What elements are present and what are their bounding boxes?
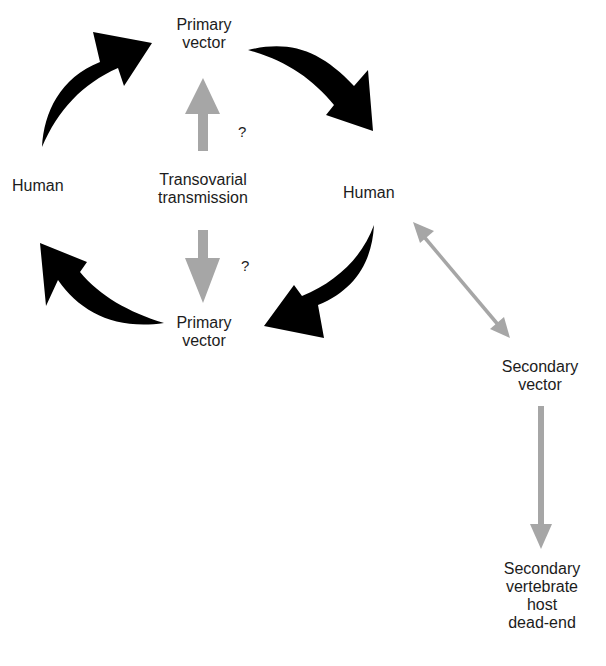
node-transovarial-transmission: Transovarial transmission (148, 171, 258, 207)
arrow-human-right-to-primary-vector-bottom (264, 225, 374, 338)
node-secondary-vertebrate-host: Secondary vertebrate host dead-end (494, 560, 590, 632)
node-secondary-vector: Secondary vector (492, 358, 588, 394)
arrow-human-secondary-vector-double (413, 222, 510, 338)
node-human-left: Human (12, 177, 72, 195)
node-primary-vector-bottom-line2: vector (168, 332, 240, 350)
arrow-human-to-primary-vector-top (42, 32, 152, 147)
node-secondary-vector-line1: Secondary (492, 358, 588, 376)
node-secondary-host-line2: vertebrate (494, 578, 590, 596)
arrow-transovarial-up (185, 78, 220, 151)
node-transovarial-line1: Transovarial (148, 171, 258, 189)
uncertainty-mark-upper: ? (238, 123, 246, 140)
node-secondary-host-line3: host (494, 596, 590, 614)
node-secondary-host-line4: dead-end (494, 614, 590, 632)
node-secondary-vector-line2: vector (492, 376, 588, 394)
node-transovarial-line2: transmission (148, 189, 258, 207)
node-secondary-host-line1: Secondary (494, 560, 590, 578)
arrow-transovarial-down (185, 230, 220, 303)
node-primary-vector-top: Primary vector (168, 16, 240, 52)
node-human-left-label: Human (12, 177, 72, 195)
uncertainty-mark-lower: ? (241, 257, 249, 274)
node-human-right: Human (343, 184, 403, 202)
arrow-secondary-vector-to-host (530, 406, 552, 549)
arrow-primary-vector-bottom-to-human-left (40, 243, 164, 325)
node-primary-vector-bottom: Primary vector (168, 314, 240, 350)
node-primary-vector-top-line1: Primary (168, 16, 240, 34)
node-primary-vector-top-line2: vector (168, 34, 240, 52)
node-human-right-label: Human (343, 184, 403, 202)
node-primary-vector-bottom-line1: Primary (168, 314, 240, 332)
arrow-primary-vector-top-to-human-right (248, 46, 373, 131)
